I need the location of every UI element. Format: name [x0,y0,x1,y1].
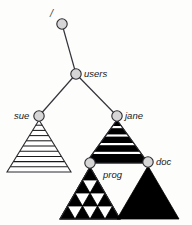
label-doc: doc [156,156,172,167]
edge-users-sue [39,74,76,116]
label-prog: prog [102,169,123,180]
doc-triangle [117,166,179,219]
edge-root-users [62,24,76,74]
subtree-doc-solid [117,166,179,219]
diagram-canvas: / users sue jane prog doc [0,0,192,225]
label-sue: sue [14,110,29,121]
node-sue[interactable] [34,111,44,121]
node-jane[interactable] [112,111,122,121]
prog-cell-1 [83,167,98,180]
node-doc[interactable] [143,157,153,167]
label-root: / [49,7,54,19]
node-root[interactable] [57,19,67,29]
edge-users-jane [76,74,117,116]
label-users: users [84,68,107,79]
node-prog[interactable] [85,158,95,168]
label-jane: jane [123,110,143,121]
node-users[interactable] [71,69,81,79]
tree-diagram: / users sue jane prog doc [0,0,192,225]
subtree-sue-striped [7,120,71,172]
subtree-jane-banded [84,120,150,163]
